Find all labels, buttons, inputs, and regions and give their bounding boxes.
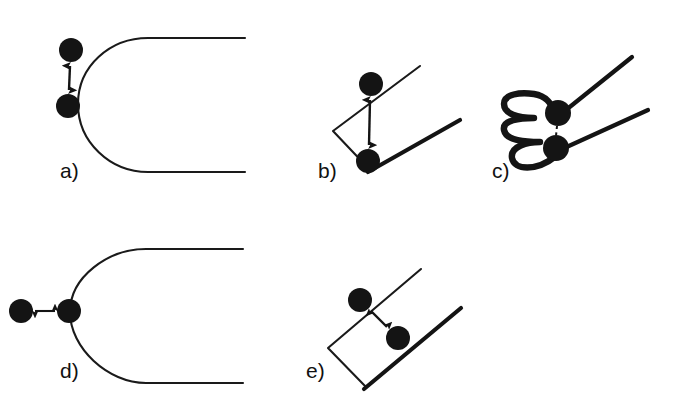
panel-a: a) xyxy=(56,38,245,182)
panel-e-crack-thin-flank xyxy=(328,269,421,387)
panel-d-crack-upper-arm xyxy=(70,249,243,312)
panel-a-crack-lower-arm xyxy=(78,104,245,172)
panel-e-interaction-arrow xyxy=(371,311,387,327)
panel-d-particle-left xyxy=(9,299,33,323)
panel-a-interaction-arrow xyxy=(69,66,70,90)
panel-e-particle-lower xyxy=(386,326,410,350)
panel-d: d) xyxy=(9,249,243,383)
panel-c-label: c) xyxy=(492,159,510,182)
panel-b-particle-upper xyxy=(359,72,383,96)
panel-b-crack-thick-flank xyxy=(368,120,460,172)
panel-a-particle-upper xyxy=(59,38,83,62)
panel-e: e) xyxy=(306,269,461,389)
panel-c-crack-lower-flank xyxy=(560,110,648,150)
panel-e-label: e) xyxy=(306,359,325,382)
crack-tip-figure: a) b) c) d) xyxy=(0,0,674,405)
figure-canvas: a) b) c) d) xyxy=(0,0,674,405)
panel-b-label: b) xyxy=(318,159,337,182)
panel-a-particle-lower xyxy=(56,94,80,118)
panel-c-particle-lower xyxy=(543,135,569,161)
panel-a-label: a) xyxy=(60,159,79,182)
panel-b-particle-lower xyxy=(356,149,380,173)
panel-c: c) xyxy=(492,57,648,182)
panel-c-interaction-bond xyxy=(556,126,557,136)
panel-d-label: d) xyxy=(60,359,79,382)
panel-d-crack-lower-arm xyxy=(70,312,243,383)
panel-e-particle-upper xyxy=(348,288,372,312)
panel-a-crack-upper-arm xyxy=(78,38,245,104)
panel-b-interaction-arrow xyxy=(369,100,370,145)
panel-c-particle-upper xyxy=(545,100,571,126)
panel-b: b) xyxy=(318,66,460,182)
panel-d-particle-right xyxy=(57,299,81,323)
